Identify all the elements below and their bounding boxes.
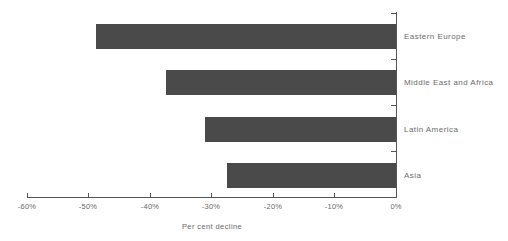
category-label-asia: Asia [404, 171, 421, 180]
x-axis-tick-label: 0% [376, 202, 416, 211]
bar-middle-east-and-africa[interactable] [166, 70, 396, 95]
x-axis-tick [150, 193, 151, 198]
x-axis-tick [396, 193, 397, 198]
y-axis-tick [391, 105, 396, 106]
y-axis-tick [391, 59, 396, 60]
x-axis-tick [211, 193, 212, 198]
y-axis-tick [391, 13, 396, 14]
x-axis-tick-label: -30% [191, 202, 231, 211]
x-axis-tick [88, 193, 89, 198]
y-axis-tick [391, 151, 396, 152]
bar-eastern-europe[interactable] [96, 24, 396, 49]
x-axis-tick [27, 193, 28, 198]
plot-area: -60% -50% -40% -30% -20% -10% 0% Eastern… [0, 0, 508, 241]
x-axis-tick-label: -10% [314, 202, 354, 211]
bar-latin-america[interactable] [205, 117, 396, 142]
x-axis-tick-label: -40% [130, 202, 170, 211]
x-axis-tick-label: -20% [253, 202, 293, 211]
bar-chart: -60% -50% -40% -30% -20% -10% 0% Eastern… [0, 0, 508, 241]
x-axis-tick-label: -60% [7, 202, 47, 211]
x-axis-title: Per cent decline [27, 222, 397, 231]
x-axis-line [27, 197, 397, 198]
category-label-eastern-europe: Eastern Europe [404, 32, 466, 41]
y-axis-line [396, 12, 397, 198]
x-axis-tick-label: -50% [68, 202, 108, 211]
bar-asia[interactable] [227, 163, 396, 188]
x-axis-tick [273, 193, 274, 198]
x-axis-tick [334, 193, 335, 198]
y-axis-tick [391, 197, 396, 198]
category-label-middle-east-and-africa: Middle East and Africa [404, 78, 494, 87]
category-label-latin-america: Latin America [404, 125, 458, 134]
